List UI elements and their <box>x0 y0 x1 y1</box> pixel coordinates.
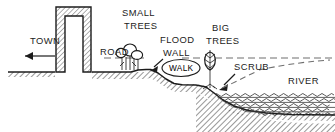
label-wall: WALL <box>163 47 190 58</box>
label-walk: WALK <box>169 63 194 73</box>
diagram-canvas: TOWN SMALL TREES ROAD FLOOD WALL BIG TRE… <box>0 0 335 132</box>
town-arrow-icon <box>25 52 55 60</box>
label-small-trees: SMALL <box>122 7 155 18</box>
label-trees: TREES <box>206 35 240 46</box>
label-small-trees-line2: TREES <box>124 20 158 31</box>
label-road: ROAD <box>100 46 129 57</box>
arch-structure <box>56 7 91 72</box>
flood-wall-arrow-icon <box>150 59 163 72</box>
terrain-profile-line <box>8 70 335 116</box>
label-scrub: SCRUB <box>234 61 269 72</box>
label-town: TOWN <box>30 35 60 46</box>
scrub-arrow-icon <box>219 74 235 91</box>
label-big: BIG <box>212 22 230 33</box>
label-flood: FLOOD <box>160 34 195 45</box>
cross-section-drawing: TOWN SMALL TREES ROAD FLOOD WALL BIG TRE… <box>0 0 335 132</box>
label-river: RIVER <box>288 75 319 86</box>
big-trees-symbol <box>203 50 217 89</box>
